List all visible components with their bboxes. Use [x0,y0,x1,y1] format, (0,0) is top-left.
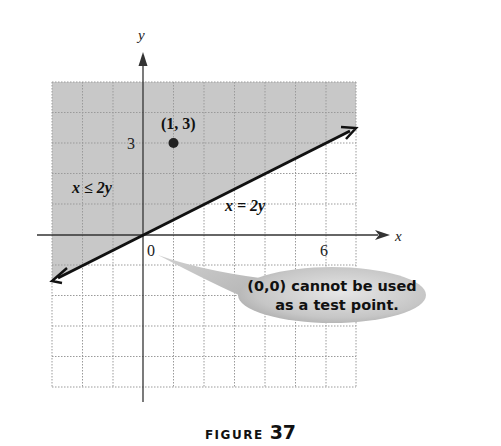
point-label: (1, 3) [161,115,196,133]
x-tick-label: 6 [320,242,328,259]
callout-text-line2: as a test point. [275,297,399,313]
y-axis-label: y [136,27,145,43]
x-axis-label: x [394,228,402,244]
callout-bubble [238,267,426,323]
caption-number: 37 [270,421,296,443]
y-axis-arrow-icon [139,52,148,66]
figure-caption: FIGURE37 [0,421,501,443]
callout-text-line1: (0,0) cannot be used [247,278,416,294]
y-tick-label: 3 [127,135,135,152]
test-point [169,138,179,148]
line-label: x = 2y [224,197,266,215]
figure-graph: y x 0 6 3 (1, 3) x ≤ 2y x = 2y (0,0) can… [0,0,501,446]
inequality-label: x ≤ 2y [71,179,113,197]
origin-label: 0 [147,242,155,259]
caption-word: FIGURE [205,428,264,442]
